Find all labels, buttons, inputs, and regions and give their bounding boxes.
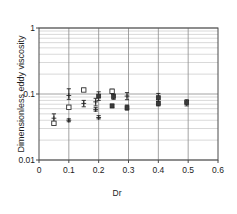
data-point-group xyxy=(81,100,86,106)
marker-filled-square xyxy=(156,96,160,100)
x-tick-label: 0.3 xyxy=(123,165,135,175)
x-tick-label: 0.2 xyxy=(93,165,105,175)
y-tick-label: 0.01 xyxy=(18,155,35,165)
x-tick-label: 0.5 xyxy=(182,165,194,175)
data-point-group xyxy=(82,88,86,92)
x-tick-label: 0 xyxy=(37,165,42,175)
marker-open-square xyxy=(52,121,56,125)
marker-filled-square xyxy=(110,104,114,108)
x-tick-label: 0.1 xyxy=(63,165,75,175)
x-tick-label: 0.4 xyxy=(152,165,164,175)
marker-cross xyxy=(81,101,86,106)
chart-container: 00.10.20.30.40.50.6 10.10.01 Dr Dimensio… xyxy=(0,0,237,214)
x-axis-title: Dr xyxy=(113,188,122,198)
marker-filled-square xyxy=(185,101,189,105)
y-axis-title: Dimensionless eddy viscosity xyxy=(16,35,26,153)
data-point-group xyxy=(110,89,114,93)
data-point-group xyxy=(52,121,56,125)
marker-filled-square xyxy=(112,94,116,98)
data-point-group xyxy=(125,105,129,110)
data-point-group xyxy=(185,100,189,106)
data-point-group xyxy=(93,98,98,106)
marker-filled-square xyxy=(125,106,129,110)
data-point-group xyxy=(67,105,71,109)
data-point-group xyxy=(93,107,98,112)
data-point-group xyxy=(97,92,101,101)
data-point-group xyxy=(110,104,114,108)
data-point-group xyxy=(66,118,71,123)
x-tick-label: 0.6 xyxy=(212,165,224,175)
data-point-group xyxy=(156,101,160,106)
marker-filled-square xyxy=(156,101,160,105)
eddy-viscosity-scatter-plot: 00.10.20.30.40.50.6 10.10.01 Dr Dimensio… xyxy=(0,0,237,214)
marker-filled-square xyxy=(97,94,101,98)
marker-open-square xyxy=(110,89,114,93)
marker-cross xyxy=(52,116,57,121)
marker-open-square xyxy=(67,105,71,109)
data-point-group xyxy=(111,94,115,99)
marker-open-square xyxy=(82,88,86,92)
y-tick-label: 1 xyxy=(30,23,35,33)
data-points-layer xyxy=(52,88,189,126)
data-point-group xyxy=(96,115,101,120)
x-axis-tick-labels: 00.10.20.30.40.50.6 xyxy=(37,165,225,175)
